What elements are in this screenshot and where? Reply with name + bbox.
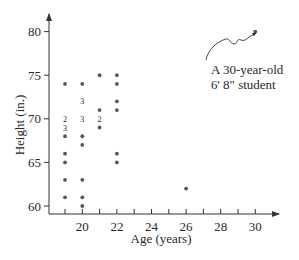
point-count-label: 2 xyxy=(98,115,102,124)
scatter-chart: 6065707580 202224262830 23332 Age (years… xyxy=(0,0,299,260)
annotation: A 30-year-old 6' 8" student xyxy=(206,33,284,92)
y-tick-label: 60 xyxy=(28,199,41,214)
y-axis-title: Height (in.) xyxy=(12,95,27,156)
data-point xyxy=(80,82,84,86)
data-points: 23332 xyxy=(63,30,257,208)
data-point xyxy=(115,161,119,165)
point-count-label: 3 xyxy=(80,97,84,106)
point-count-label: 3 xyxy=(63,124,67,133)
data-point xyxy=(63,178,67,182)
point-count-label: 3 xyxy=(80,115,84,124)
data-point xyxy=(115,99,119,103)
point-count-label: 2 xyxy=(63,115,67,124)
y-tick-label: 70 xyxy=(28,111,41,126)
x-tick-label: 28 xyxy=(214,219,227,234)
data-point xyxy=(115,108,119,112)
data-point xyxy=(98,108,102,112)
data-point xyxy=(80,178,84,182)
x-tick-label: 30 xyxy=(249,219,262,234)
data-point xyxy=(80,143,84,147)
data-point xyxy=(98,126,102,130)
data-point xyxy=(63,161,67,165)
y-tick-label: 65 xyxy=(28,155,41,170)
y-axis: 6065707580 xyxy=(28,14,49,214)
data-point xyxy=(63,152,67,156)
data-point xyxy=(80,195,84,199)
data-point xyxy=(98,73,102,77)
data-point xyxy=(63,134,67,138)
annotation-pointer-icon xyxy=(206,33,256,60)
data-point xyxy=(63,195,67,199)
data-point xyxy=(115,73,119,77)
x-tick-label: 20 xyxy=(76,219,89,234)
data-point xyxy=(184,187,188,191)
x-axis-title: Age (years) xyxy=(131,231,192,246)
data-point xyxy=(115,152,119,156)
data-point xyxy=(63,82,67,86)
x-tick-label: 22 xyxy=(110,219,123,234)
y-tick-label: 80 xyxy=(28,24,41,39)
annotation-line-2: 6' 8" student xyxy=(211,77,276,92)
y-tick-label: 75 xyxy=(28,68,41,83)
annotation-line-1: A 30-year-old xyxy=(211,62,284,77)
data-point xyxy=(80,134,84,138)
data-point xyxy=(80,204,84,208)
data-point xyxy=(115,82,119,86)
